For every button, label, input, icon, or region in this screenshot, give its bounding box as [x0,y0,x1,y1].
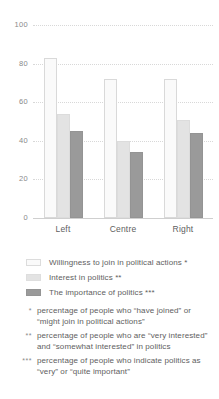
bar-group-centre [93,25,153,218]
legend-swatch-icon-1 [26,259,41,266]
bar-centre-series1 [104,79,117,218]
y-tick-label-40: 40 [2,137,28,145]
legend-label-1: Willingness to join in political actions… [49,258,188,267]
bar-right-series1 [164,79,177,218]
bar-chart: 020406080100 LeftCentreRight [0,0,219,243]
x-tick-label-right: Right [153,224,213,234]
chart-footnotes: *percentage of people who “have joined” … [8,305,213,380]
footnote-marker-2: ** [8,330,37,341]
x-axis-line [33,218,213,219]
y-tick-label-80: 80 [2,60,28,68]
bar-centre-series3 [130,152,143,218]
footnote-text-3: percentage of people who indicate politi… [37,355,213,377]
footnote-text-1: percentage of people who “have joined” o… [37,305,213,327]
bars [93,25,153,218]
y-tick-label-20: 20 [2,175,28,183]
bar-centre-series2 [117,141,130,218]
y-tick-label-100: 100 [2,21,28,29]
chart-legend: Willingness to join in political actions… [26,256,216,301]
footnote-3: ***percentage of people who indicate pol… [8,355,213,377]
y-tick-label-0: 0 [2,214,28,222]
bar-right-series3 [190,133,203,218]
footnote-marker-3: *** [8,355,37,366]
bar-left-series1 [44,58,57,218]
footnote-2: **percentage of people who are “very int… [8,330,213,352]
legend-item-3: The importance of politics *** [26,286,216,299]
bar-groups [33,25,213,218]
bar-left-series3 [70,131,83,218]
legend-swatch-icon-2 [26,274,41,281]
legend-swatch-icon-3 [26,289,41,296]
bar-group-right [153,25,213,218]
bar-group-left [33,25,93,218]
bars [33,25,93,218]
x-tick-label-centre: Centre [93,224,153,234]
footnote-marker-1: * [8,305,37,316]
y-tick-label-60: 60 [2,98,28,106]
legend-label-3: The importance of politics *** [49,288,155,297]
legend-item-1: Willingness to join in political actions… [26,256,216,269]
bar-left-series2 [57,114,70,218]
legend-label-2: Interest in politics ** [49,273,122,282]
bar-right-series2 [177,120,190,218]
x-tick-label-left: Left [33,224,93,234]
footnote-text-2: percentage of people who are “very inter… [37,330,213,352]
bars [153,25,213,218]
footnote-1: *percentage of people who “have joined” … [8,305,213,327]
legend-item-2: Interest in politics ** [26,271,216,284]
